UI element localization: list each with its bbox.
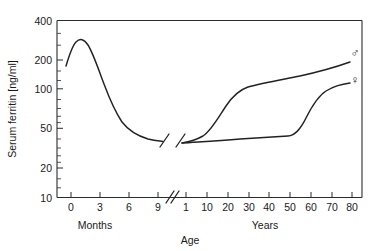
curve-female <box>182 83 350 143</box>
x-tick-label-year-1: 1 <box>183 201 189 213</box>
y-axis-ticks <box>57 21 63 198</box>
y-tick-label-200: 200 <box>34 54 52 66</box>
curve-break-left <box>160 134 169 147</box>
x-tick-label-year-10: 10 <box>201 201 213 213</box>
x-axis-ticks-years <box>186 192 352 198</box>
x-tick-label-year-80: 80 <box>346 201 358 213</box>
female-symbol-icon: ♀ <box>351 73 360 87</box>
y-tick-label-10: 10 <box>40 192 52 204</box>
x-tick-label-year-30: 30 <box>243 201 255 213</box>
x-tick-label-year-70: 70 <box>326 201 338 213</box>
x-axis-ticks-months <box>71 192 158 198</box>
x-tick-label-year-60: 60 <box>305 201 317 213</box>
serum-ferritin-chart: 400 200 100 50 20 10 Serum ferritin [ng/… <box>0 0 381 251</box>
x-tick-label-year-50: 50 <box>284 201 296 213</box>
x-axis-title: Age <box>181 234 200 246</box>
y-tick-label-100: 100 <box>34 83 52 95</box>
y-tick-label-50: 50 <box>40 122 52 134</box>
x-tick-label-year-20: 20 <box>222 201 234 213</box>
x-tick-label-year-40: 40 <box>263 201 275 213</box>
plot-frame <box>57 21 362 198</box>
x-axis-years-label: Years <box>252 219 278 231</box>
x-tick-label-month-3: 3 <box>97 201 103 213</box>
x-axis-months-label: Months <box>78 219 112 231</box>
chart-figure: 400 200 100 50 20 10 Serum ferritin [ng/… <box>0 0 381 251</box>
curve-break-right <box>176 134 185 147</box>
x-tick-label-month-9: 9 <box>155 201 161 213</box>
y-tick-label-400: 400 <box>34 15 52 27</box>
x-tick-label-month-0: 0 <box>68 201 74 213</box>
x-tick-label-month-6: 6 <box>126 201 132 213</box>
y-axis-title: Serum ferritin [ng/ml] <box>6 60 18 158</box>
curve-infancy <box>66 40 163 142</box>
male-symbol-icon: ♂ <box>351 46 360 60</box>
curve-male <box>182 62 350 143</box>
y-axis-minor-ticks <box>57 33 61 187</box>
y-tick-label-20: 20 <box>40 162 52 174</box>
